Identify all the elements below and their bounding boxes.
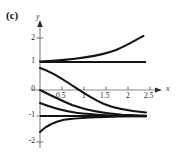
y-axis-label: y xyxy=(36,12,40,21)
y-tick-label-0: 0 xyxy=(26,84,35,93)
y-tick-label-neg2: -2 xyxy=(22,136,35,145)
y-axis-arrowhead xyxy=(37,20,43,27)
plot-area xyxy=(0,0,181,153)
curve-from-neg1p5 xyxy=(40,116,146,132)
axes xyxy=(31,20,162,148)
y-tick-label-neg1: -1 xyxy=(22,110,35,119)
y-tick-label-2: 2 xyxy=(26,33,35,42)
figure-panel: (c) xyxy=(0,0,181,153)
x-axis-arrowhead xyxy=(155,87,162,92)
x-tick-label-2: 2 xyxy=(126,91,130,100)
x-tick-label-2p5: 2.5 xyxy=(144,91,153,100)
x-tick-label-0p5: 0.5 xyxy=(56,91,65,100)
x-tick-label-1: 1 xyxy=(82,91,86,100)
y-tick-label-1: 1 xyxy=(26,56,35,65)
curve-divergent-upper xyxy=(40,36,144,62)
x-tick-label-1p5: 1.5 xyxy=(100,91,109,100)
x-axis-label: x xyxy=(166,84,170,93)
